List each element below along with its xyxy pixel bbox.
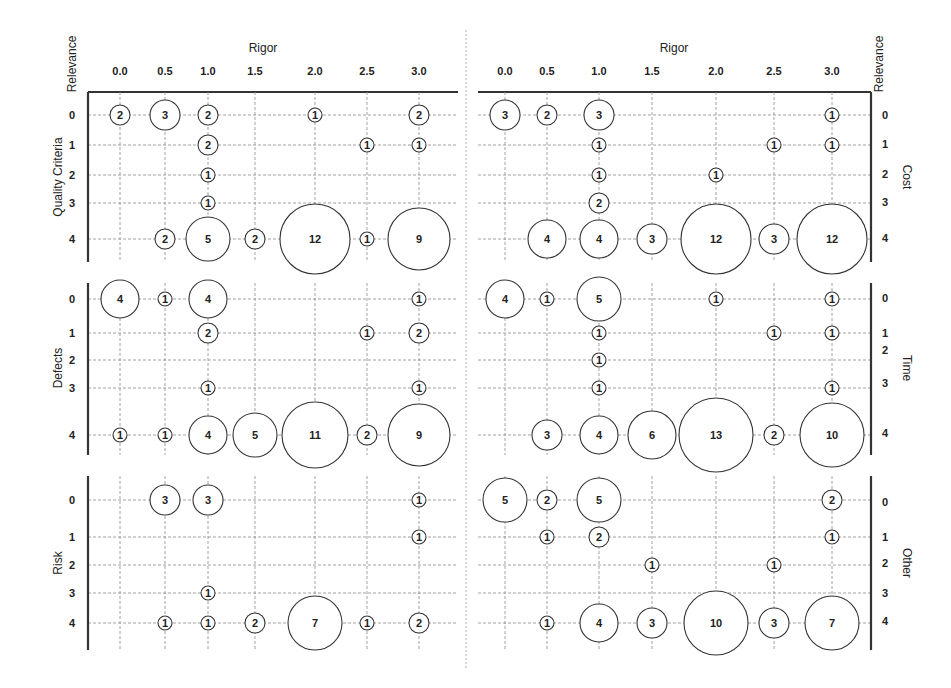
- cost-bubble-count: 1: [596, 169, 602, 181]
- other-y-tick: 0: [882, 496, 888, 508]
- other-bubble-count: 1: [544, 617, 550, 629]
- right-x-tick: 2.5: [766, 65, 781, 77]
- quality-criteria-y-tick: 3: [69, 197, 75, 209]
- defects-y-tick: 0: [69, 293, 75, 305]
- other-bubble-count: 2: [829, 494, 835, 506]
- risk-y-tick: 2: [69, 559, 75, 571]
- right-x-tick: 0.5: [539, 65, 554, 77]
- time-y-tick: 3: [882, 377, 888, 389]
- time-bubble-count: 2: [771, 429, 777, 441]
- defects-bubble-count: 1: [364, 327, 370, 339]
- defects-bubble-count: 1: [205, 382, 211, 394]
- risk-bubble-count: 1: [364, 617, 370, 629]
- time-y-tick: 4: [882, 427, 889, 439]
- other-bubble-count: 5: [502, 494, 508, 506]
- cost-bubble-count: 12: [710, 233, 722, 245]
- quality-criteria-y-tick: 0: [69, 109, 75, 121]
- other-y-tick: 1: [882, 531, 888, 543]
- cost-bubble-count: 3: [596, 109, 602, 121]
- right-x-axis-title: Rigor: [660, 41, 689, 55]
- risk-y-tick: 1: [69, 531, 75, 543]
- other-bubble-count: 2: [596, 531, 602, 543]
- defects-y-tick: 4: [69, 429, 76, 441]
- time-bubble-count: 1: [713, 293, 719, 305]
- other-y-tick: 3: [882, 587, 888, 599]
- right-y-axis-title: Relevance: [872, 35, 886, 92]
- cost-bubble-count: 3: [649, 233, 655, 245]
- time-bubble-count: 13: [710, 429, 722, 441]
- bubble-chart-canvas: Rigor Rigor Relevance Relevance Quality …: [0, 0, 951, 688]
- cost-bubble-count: 3: [771, 233, 777, 245]
- other-bubble-count: 4: [596, 617, 603, 629]
- time-bubble-count: 1: [771, 327, 777, 339]
- time-bubble-count: 4: [502, 293, 509, 305]
- left-x-tick: 1.5: [247, 65, 262, 77]
- risk-y-tick: 4: [69, 617, 76, 629]
- defects-bubble-count: 1: [416, 293, 422, 305]
- time-bubble-count: 3: [544, 429, 550, 441]
- plot-area: 0.00.00.50.51.01.01.51.52.02.02.52.53.03…: [69, 65, 889, 655]
- other-bubble-count: 3: [649, 617, 655, 629]
- right-x-tick: 1.5: [644, 65, 659, 77]
- cost-bubble-count: 4: [544, 233, 551, 245]
- quality-criteria-bubble-count: 1: [364, 233, 370, 245]
- defects-bubble-count: 2: [205, 327, 211, 339]
- quality-criteria-bubble-count: 3: [162, 109, 168, 121]
- risk-bubble-count: 1: [205, 617, 211, 629]
- panel-title-quality-criteria: Quality Criteria: [51, 137, 65, 217]
- other-bubble-count: 10: [710, 617, 722, 629]
- other-bubble-count: 1: [829, 531, 835, 543]
- quality-criteria-bubble-count: 5: [205, 233, 211, 245]
- risk-bubble-count: 3: [205, 494, 211, 506]
- quality-criteria-bubble-count: 9: [416, 233, 422, 245]
- defects-bubble-count: 1: [117, 429, 123, 441]
- other-bubble-count: 1: [771, 559, 777, 571]
- time-bubble-count: 10: [826, 429, 838, 441]
- panel-title-other: Other: [900, 548, 914, 578]
- cost-y-tick: 4: [882, 232, 889, 244]
- panel-title-time: Time: [900, 355, 914, 382]
- cost-bubble-count: 2: [544, 109, 550, 121]
- quality-criteria-bubble-count: 1: [205, 169, 211, 181]
- left-y-axis-title: Relevance: [65, 35, 79, 92]
- risk-y-tick: 0: [69, 494, 75, 506]
- other-y-tick: 2: [882, 557, 888, 569]
- time-y-tick: 0: [882, 292, 888, 304]
- quality-criteria-bubble-count: 1: [205, 197, 211, 209]
- defects-bubble-count: 1: [162, 293, 168, 305]
- defects-y-tick: 2: [69, 354, 75, 366]
- cost-bubble-count: 1: [829, 139, 835, 151]
- right-x-tick: 0.0: [497, 65, 512, 77]
- cost-bubble-count: 1: [829, 109, 835, 121]
- quality-criteria-bubble-count: 1: [364, 139, 370, 151]
- risk-bubble-count: 2: [416, 617, 422, 629]
- defects-bubble-count: 2: [364, 429, 370, 441]
- panel-title-cost: Cost: [900, 165, 914, 190]
- defects-bubble-count: 4: [117, 293, 124, 305]
- time-bubble-count: 1: [596, 382, 602, 394]
- left-x-tick: 1.0: [200, 65, 215, 77]
- time-bubble-count: 1: [544, 293, 550, 305]
- other-bubble-count: 2: [544, 494, 550, 506]
- quality-criteria-bubble-count: 2: [205, 139, 211, 151]
- right-x-tick: 1.0: [591, 65, 606, 77]
- time-bubble-count: 6: [649, 429, 655, 441]
- defects-bubble-count: 2: [416, 327, 422, 339]
- bubble-chart: Rigor Rigor Relevance Relevance Quality …: [0, 0, 951, 688]
- risk-bubble-count: 3: [162, 494, 168, 506]
- quality-criteria-bubble-count: 1: [312, 109, 318, 121]
- quality-criteria-y-tick: 2: [69, 169, 75, 181]
- defects-bubble-count: 4: [205, 429, 212, 441]
- time-bubble-count: 4: [596, 429, 603, 441]
- cost-bubble-count: 1: [596, 139, 602, 151]
- cost-bubble-count: 4: [596, 233, 603, 245]
- defects-y-tick: 3: [69, 382, 75, 394]
- time-y-tick: 2: [882, 344, 888, 356]
- other-bubble-count: 1: [544, 531, 550, 543]
- quality-criteria-y-tick: 4: [69, 233, 76, 245]
- quality-criteria-bubble-count: 2: [416, 109, 422, 121]
- risk-y-tick: 3: [69, 587, 75, 599]
- cost-y-tick: 2: [882, 168, 888, 180]
- quality-criteria-bubble-count: 1: [416, 139, 422, 151]
- time-bubble-count: 5: [596, 293, 602, 305]
